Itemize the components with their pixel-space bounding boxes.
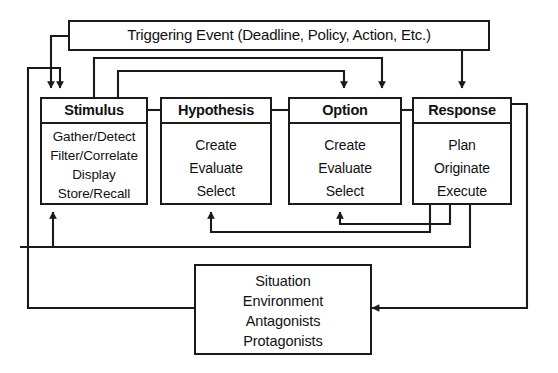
diagram-canvas: Triggering Event (Deadline, Policy, Acti…: [0, 0, 558, 373]
context-item: Protagonists: [196, 331, 370, 351]
stage-item: Originate: [414, 157, 510, 180]
wire-response-to-option: [340, 205, 450, 224]
wire-trigger-to-stimulus: [51, 36, 68, 88]
stage-header-stimulus: Stimulus: [42, 99, 146, 124]
stage-items-hypothesis: Create Evaluate Select: [162, 124, 270, 203]
context-item: Situation: [196, 271, 370, 291]
stage-item: Filter/Correlate: [42, 146, 146, 165]
stage-box-response: Response Plan Originate Execute: [412, 97, 512, 205]
stage-item: Execute: [414, 180, 510, 203]
stage-items-stimulus: Gather/Detect Filter/Correlate Display S…: [42, 124, 146, 203]
stage-item: Select: [162, 180, 270, 203]
stage-box-option: Option Create Evaluate Select: [288, 97, 402, 205]
stage-item: Create: [162, 134, 270, 157]
triggering-event-label: Triggering Event (Deadline, Policy, Acti…: [70, 22, 488, 48]
stage-item: Create: [290, 134, 400, 157]
stage-header-option: Option: [290, 99, 400, 124]
wire-response-to-hypothesis: [211, 205, 430, 232]
stage-header-hypothesis: Hypothesis: [162, 99, 270, 124]
context-items: Situation Environment Antagonists Protag…: [196, 266, 370, 351]
stage-item: Store/Recall: [42, 184, 146, 203]
stage-item: Evaluate: [290, 157, 400, 180]
stage-items-option: Create Evaluate Select: [290, 124, 400, 203]
context-item: Environment: [196, 291, 370, 311]
stage-box-stimulus: Stimulus Gather/Detect Filter/Correlate …: [40, 97, 148, 205]
stage-item: Gather/Detect: [42, 127, 146, 146]
wire-response-to-stimulus: [20, 205, 470, 247]
triggering-event-box: Triggering Event (Deadline, Policy, Acti…: [68, 20, 490, 51]
stage-items-response: Plan Originate Execute: [414, 124, 510, 203]
stage-box-hypothesis: Hypothesis Create Evaluate Select: [160, 97, 272, 205]
stage-header-response: Response: [414, 99, 510, 124]
stage-item: Select: [290, 180, 400, 203]
stage-item: Display: [42, 165, 146, 184]
wire-mid-trunk-left: [53, 212, 470, 247]
stage-item: Plan: [414, 134, 510, 157]
context-item: Antagonists: [196, 311, 370, 331]
stage-item: Evaluate: [162, 157, 270, 180]
context-box: Situation Environment Antagonists Protag…: [194, 264, 372, 355]
